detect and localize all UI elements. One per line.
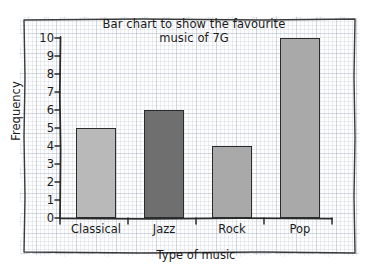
y-tick-4: 4	[32, 139, 54, 153]
x-category-classical: Classical	[71, 222, 121, 236]
x-category-rock: Rock	[218, 222, 246, 236]
bar-rock	[212, 146, 252, 218]
y-tick-10: 10	[32, 31, 54, 45]
y-tick-5: 5	[32, 121, 54, 135]
chart-axes	[0, 0, 378, 272]
y-tick-7: 7	[32, 85, 54, 99]
plot-area: Bar chart to show the favourite music of…	[0, 0, 378, 272]
chart-screenshot: Bar chart to show the favourite music of…	[0, 0, 378, 272]
y-tick-0: 0	[32, 211, 54, 225]
bar-jazz	[144, 110, 184, 218]
y-axis-label: Frequency	[9, 65, 23, 157]
y-tick-1: 1	[32, 193, 54, 207]
bar-pop	[280, 38, 320, 218]
x-axis-label: Type of music	[60, 248, 332, 262]
y-tick-6: 6	[32, 103, 54, 117]
x-category-pop: Pop	[290, 222, 311, 236]
y-tick-2: 2	[32, 175, 54, 189]
y-axis-tick-labels: 10 9 8 7 6 5 4 3 2 1 0	[24, 0, 54, 272]
y-tick-3: 3	[32, 157, 54, 171]
y-tick-8: 8	[32, 67, 54, 81]
bar-classical	[76, 128, 116, 218]
x-category-jazz: Jazz	[153, 222, 176, 236]
y-tick-9: 9	[32, 49, 54, 63]
